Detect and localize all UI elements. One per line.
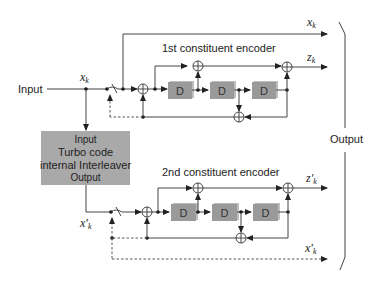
- svg-text:D: D: [260, 85, 268, 97]
- zpk-output-label: z'k: [305, 171, 317, 186]
- interleaver-block: Input Turbo code internal Interleaver Ou…: [40, 131, 131, 185]
- xk-output-label: xk: [306, 15, 316, 30]
- svg-text:D: D: [221, 207, 229, 219]
- encoder-1-title: 1st constituent encoder: [162, 42, 276, 54]
- svg-text:Output: Output: [70, 172, 100, 183]
- interleaver-output-line: [86, 185, 110, 212]
- svg-text:Turbo code: Turbo code: [58, 146, 113, 158]
- svg-text:D: D: [180, 207, 188, 219]
- output-label: Output: [330, 133, 363, 145]
- svg-text:D: D: [218, 85, 226, 97]
- svg-text:D: D: [176, 85, 184, 97]
- svg-text:internal Interleaver: internal Interleaver: [40, 159, 131, 171]
- encoder-2: 2nd constituent encoder D D D: [109, 166, 327, 259]
- encoder-1: 1st constituent encoder xk D D: [105, 15, 327, 122]
- zk-output-label: zk: [306, 50, 316, 65]
- svg-text:D: D: [262, 207, 270, 219]
- output-bracket: Output: [330, 22, 363, 270]
- encoder-2-title: 2nd constituent encoder: [162, 166, 280, 178]
- input-label: Input: [18, 83, 42, 95]
- xpk-output-label: x'k: [304, 241, 317, 256]
- xk-input-label: xk: [79, 70, 89, 85]
- xpk-input-label: x'k: [79, 216, 92, 231]
- turbo-encoder-diagram: Input xk Input Turbo code internal Inter…: [0, 0, 377, 282]
- svg-text:Input: Input: [74, 134, 96, 145]
